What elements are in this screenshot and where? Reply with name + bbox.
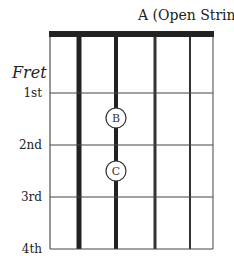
note-label-c: C bbox=[112, 165, 120, 178]
note-marker-b: B bbox=[106, 108, 126, 128]
nut bbox=[49, 31, 214, 37]
note-marker-c: C bbox=[106, 161, 126, 181]
note-label-b: B bbox=[112, 112, 120, 125]
fretboard: B C bbox=[0, 0, 234, 271]
